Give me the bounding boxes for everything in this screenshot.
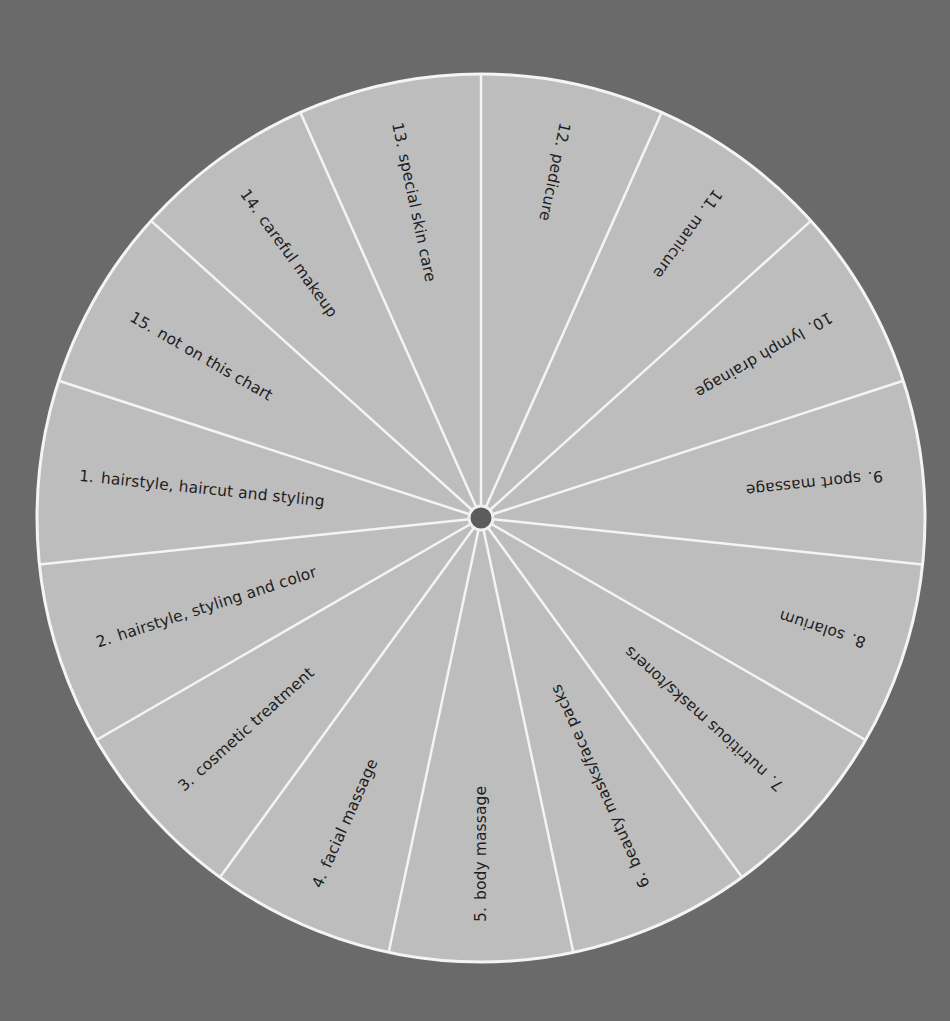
sector-label-text: body massage — [472, 786, 490, 900]
sector-number: 5. — [472, 907, 490, 922]
center-hub-dot — [469, 506, 493, 530]
wheel-chart-canvas: 12.pedicure11.manicure10.lymph drainage9… — [0, 0, 950, 1021]
sector-number: 1. — [78, 466, 95, 485]
service-wheel: 12.pedicure11.manicure10.lymph drainage9… — [0, 0, 950, 1021]
sector-number: 9. — [867, 467, 884, 486]
